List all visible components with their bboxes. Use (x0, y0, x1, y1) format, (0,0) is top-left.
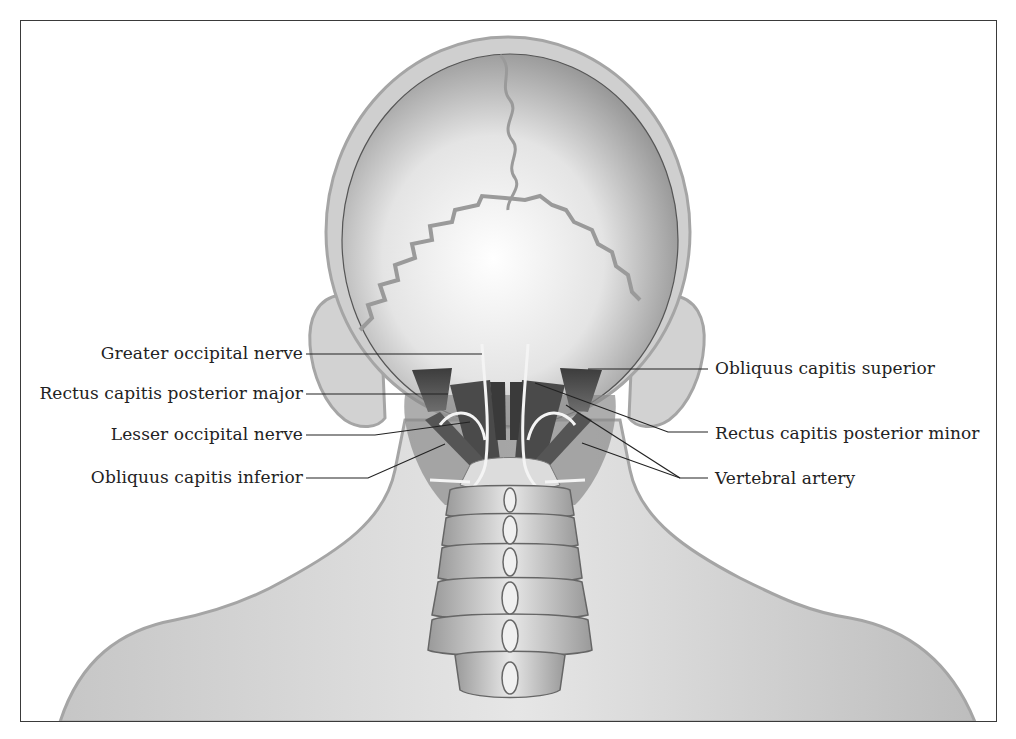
label-obliquus-capitis-inferior: Obliquus capitis inferior (91, 467, 303, 487)
label-rectus-capitis-posterior-major: Rectus capitis posterior major (39, 383, 303, 403)
label-lesser-occipital-nerve: Lesser occipital nerve (111, 424, 303, 444)
skull (342, 54, 678, 426)
label-rectus-capitis-posterior-minor: Rectus capitis posterior minor (715, 423, 980, 443)
label-vertebral-artery: Vertebral artery (715, 468, 855, 488)
label-obliquus-capitis-superior: Obliquus capitis superior (715, 358, 935, 378)
label-greater-occipital-nerve: Greater occipital nerve (101, 343, 303, 363)
